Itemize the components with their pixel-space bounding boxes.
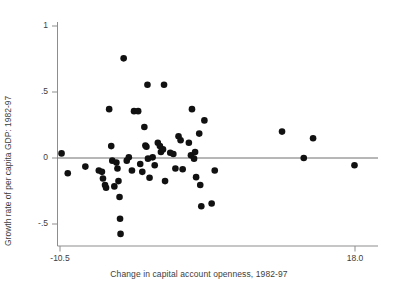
data-point (58, 150, 65, 157)
data-point (197, 182, 204, 189)
data-point (162, 178, 169, 185)
data-point (106, 106, 113, 113)
data-point (161, 81, 168, 88)
data-point (279, 128, 286, 135)
data-point (143, 143, 150, 150)
data-points-group (58, 55, 358, 237)
data-point (192, 149, 199, 156)
data-point (141, 124, 148, 131)
data-point (201, 117, 208, 124)
axes-group (52, 22, 378, 252)
data-point (99, 169, 106, 176)
data-point (160, 146, 167, 153)
data-point (113, 159, 120, 166)
data-point (114, 165, 121, 172)
scatter-plot-figure: Growth rate of per capita GDP: 1982-97 C… (0, 0, 398, 287)
data-point (351, 162, 358, 169)
data-point (151, 162, 158, 169)
data-point (196, 130, 203, 137)
data-point (179, 166, 186, 173)
data-point (189, 106, 196, 113)
data-point (208, 200, 215, 207)
data-point (64, 170, 71, 177)
y-tick-label-1: 0 (0, 152, 48, 162)
data-point (135, 108, 142, 115)
data-point (103, 184, 110, 191)
y-tick-label-3: 1 (0, 20, 48, 30)
data-point (146, 175, 153, 182)
data-point (100, 175, 107, 182)
data-point (144, 81, 151, 88)
data-point (191, 155, 198, 162)
y-tick-label-0: -.5 (0, 218, 48, 228)
data-point (198, 203, 205, 210)
data-point (300, 155, 307, 162)
data-point (117, 215, 124, 222)
data-point (186, 140, 193, 147)
data-point (310, 135, 317, 142)
data-point (170, 151, 177, 158)
data-point (126, 154, 133, 161)
data-point (137, 161, 144, 168)
data-point (120, 55, 127, 62)
data-point (211, 167, 218, 174)
data-point (82, 163, 89, 170)
x-tick-label-0: -10.5 (40, 253, 80, 263)
data-point (108, 143, 115, 150)
data-point (139, 169, 146, 176)
data-point (149, 154, 156, 161)
data-point (177, 137, 184, 144)
plot-canvas (0, 0, 398, 287)
y-axis-title-wrapper: Growth rate of per capita GDP: 1982-97 (0, 0, 20, 250)
data-point (117, 231, 124, 238)
data-point (129, 167, 136, 174)
y-tick-label-2: .5 (0, 86, 48, 96)
data-point (172, 165, 179, 172)
data-point (116, 194, 123, 201)
x-axis-title: Change in capital account openness, 1982… (0, 269, 398, 279)
data-point (115, 178, 122, 185)
data-point (193, 174, 200, 181)
x-tick-label-1: 18.0 (335, 253, 375, 263)
data-point (111, 183, 118, 190)
